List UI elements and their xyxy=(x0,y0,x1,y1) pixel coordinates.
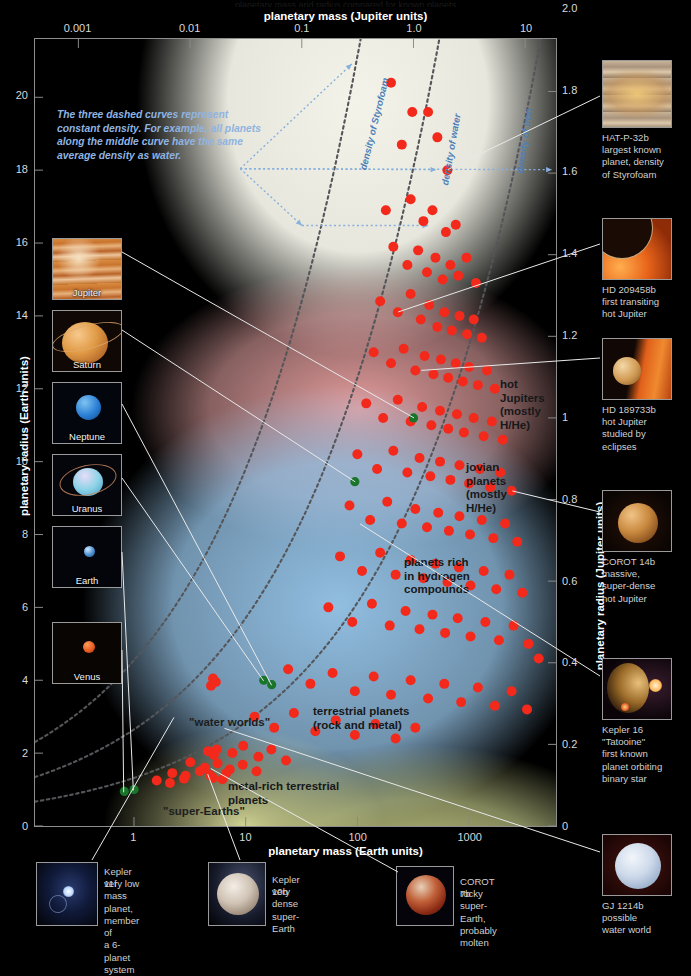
thumbnail-kepler-16 xyxy=(602,658,672,720)
data-point xyxy=(266,745,276,755)
data-point xyxy=(369,347,379,357)
data-point xyxy=(423,694,433,704)
data-point xyxy=(471,278,481,288)
callout-hat-p-32b[interactable]: HAT-P-32b largest known planet, density … xyxy=(602,60,672,128)
data-point xyxy=(432,322,442,332)
region-label-hydrogen-compounds: planets rich in hydrogen compounds xyxy=(404,556,470,597)
data-point xyxy=(453,613,463,623)
x-axis-bottom-title: planetary mass (Earth units) xyxy=(0,845,691,857)
callout-corot-14b[interactable]: COROT 14b massive, super-dense hot Jupit… xyxy=(602,490,672,552)
data-point xyxy=(454,511,464,521)
data-point xyxy=(445,475,455,485)
data-point xyxy=(423,107,433,117)
data-point xyxy=(269,723,279,733)
tick-label: 1 xyxy=(130,831,136,843)
data-point xyxy=(432,132,442,142)
callout-desc: rocky super-Earth, probably molten xyxy=(460,888,497,949)
tick-label: 0.4 xyxy=(562,656,577,668)
tick-label: 12 xyxy=(6,382,28,394)
thumbnail-caption: Jupiter xyxy=(53,287,121,298)
thumbnail-caption: Uranus xyxy=(53,503,121,514)
callout-gj-1214b[interactable]: GJ 1214b possible water world xyxy=(602,834,672,896)
data-point xyxy=(238,741,248,751)
data-point xyxy=(328,668,338,678)
data-point xyxy=(335,551,345,561)
solar-card-venus[interactable]: Venus xyxy=(52,622,122,684)
callout-desc: very low mass planet, member of a 6-plan… xyxy=(104,878,139,976)
data-point xyxy=(428,369,438,379)
data-point xyxy=(399,344,409,354)
data-point xyxy=(436,355,446,365)
data-point xyxy=(267,680,276,689)
thumbnail-gj-1214b xyxy=(602,834,672,896)
data-point xyxy=(406,675,416,685)
cropped-headline: planetary mass and radius compared for k… xyxy=(0,0,691,7)
solar-card-earth[interactable]: Earth xyxy=(52,526,122,588)
tick-label: 1.0 xyxy=(406,22,421,34)
data-point xyxy=(479,566,489,576)
data-point xyxy=(477,333,487,343)
thumbnail-saturn: Saturn xyxy=(52,310,122,372)
data-point xyxy=(453,271,463,281)
data-point xyxy=(534,653,544,663)
data-point xyxy=(473,380,483,390)
data-point xyxy=(406,289,416,299)
callout-desc: first transiting hot Jupiter xyxy=(602,296,659,321)
data-point xyxy=(490,701,500,711)
data-point xyxy=(283,664,293,674)
callout-kepler-10b[interactable]: Kepler 10b very dense super-Earth xyxy=(208,862,266,926)
region-label-metal-rich: metal-rich terrestrial planets xyxy=(228,780,339,807)
y-axis-left-title: planetary radius (Earth units) xyxy=(18,336,30,536)
tick-label: 0.6 xyxy=(562,575,577,587)
thumbnail-kepler-10b xyxy=(208,862,266,926)
tick-label: 1.2 xyxy=(562,329,577,341)
callout-title: COROT 14b xyxy=(602,556,655,568)
data-point xyxy=(397,519,407,529)
tick-label: 16 xyxy=(6,236,28,248)
data-point xyxy=(388,242,398,252)
tick-label: 0 xyxy=(6,820,28,832)
data-point xyxy=(456,697,466,707)
solar-card-uranus[interactable]: Uranus xyxy=(52,454,122,516)
data-point xyxy=(208,673,218,683)
data-point xyxy=(281,755,291,765)
data-point xyxy=(393,307,403,317)
callout-kepler-11f[interactable]: Kepler 11f very low mass planet, member … xyxy=(36,862,98,926)
data-point xyxy=(522,704,532,714)
data-point xyxy=(500,519,510,529)
data-point xyxy=(445,260,455,270)
data-point xyxy=(252,766,262,776)
callout-corot-7b[interactable]: COROT 7b rocky super-Earth, probably mol… xyxy=(396,866,454,926)
callout-hd-189733b[interactable]: HD 189733b hot Jupiter studied by eclips… xyxy=(602,338,672,400)
thumbnail-caption: Neptune xyxy=(53,431,121,442)
tick-label: 4 xyxy=(6,674,28,686)
region-label-super-earths: "super-Earths" xyxy=(163,805,245,819)
data-point xyxy=(425,471,435,481)
solar-card-jupiter[interactable]: Jupiter xyxy=(52,238,122,300)
data-point xyxy=(438,275,448,285)
callout-title: Kepler 16 xyxy=(602,724,643,736)
data-point xyxy=(462,253,472,263)
data-point xyxy=(209,750,219,760)
tick-label: 0.1 xyxy=(294,22,309,34)
data-point xyxy=(458,377,468,387)
tick-label: 8 xyxy=(6,528,28,540)
data-point xyxy=(422,522,432,532)
solar-card-neptune[interactable]: Neptune xyxy=(52,382,122,444)
tick-label: 1.6 xyxy=(562,165,577,177)
data-point xyxy=(375,296,385,306)
callout-kepler-16[interactable]: Kepler 16 "Tatooine" first known planet … xyxy=(602,658,672,720)
tick-label: 1000 xyxy=(457,831,481,843)
data-point xyxy=(420,351,430,361)
data-point xyxy=(167,768,177,778)
callout-desc: largest known planet, density of Styrofo… xyxy=(602,144,664,181)
callout-hd-209458b[interactable]: HD 209458b first transiting hot Jupiter xyxy=(602,218,672,280)
data-point xyxy=(444,526,454,536)
callout-title: HD 189733b xyxy=(602,404,656,416)
data-point xyxy=(402,468,412,478)
data-point xyxy=(473,683,483,693)
solar-card-saturn[interactable]: Saturn xyxy=(52,310,122,372)
region-label-terrestrial-planets: terrestrial planets (rock and metal) xyxy=(313,705,410,732)
data-point xyxy=(195,766,205,776)
data-point xyxy=(477,515,487,525)
